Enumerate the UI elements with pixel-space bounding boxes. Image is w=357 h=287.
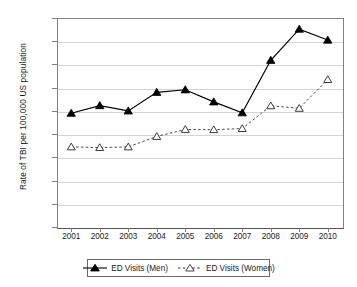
legend-label-women: ED Visits (Women) xyxy=(206,264,275,273)
gridline xyxy=(58,112,343,113)
gridline xyxy=(58,89,343,90)
y-tick-mark xyxy=(52,64,57,65)
gridline xyxy=(58,135,343,136)
y-tick-mark xyxy=(52,181,57,182)
chart-container: Rate of TBI per 100,000 US population 01… xyxy=(0,0,357,287)
filled-triangle-marker-icon xyxy=(82,263,108,273)
gridline xyxy=(58,65,343,66)
legend-entry-women: ED Visits (Women) xyxy=(177,263,275,273)
plot-area xyxy=(57,18,344,229)
y-axis-title: Rate of TBI per 100,000 US population xyxy=(19,22,28,212)
x-tick-label: 2010 xyxy=(308,232,348,241)
legend-label-men: ED Visits (Men) xyxy=(111,264,168,273)
gridline xyxy=(58,205,343,206)
gridline xyxy=(58,42,343,43)
legend-entry-men: ED Visits (Men) xyxy=(82,263,168,273)
gridline xyxy=(58,158,343,159)
y-tick-mark xyxy=(52,111,57,112)
y-tick-mark xyxy=(52,204,57,205)
y-tick-mark xyxy=(52,134,57,135)
y-tick-mark xyxy=(52,88,57,89)
gridline xyxy=(58,182,343,183)
y-tick-mark xyxy=(52,227,57,228)
chart-legend: ED Visits (Men) ED Visits (Women) xyxy=(87,259,270,277)
y-tick-mark xyxy=(52,41,57,42)
y-tick-mark xyxy=(52,157,57,158)
open-triangle-marker-icon xyxy=(177,263,203,273)
y-tick-mark xyxy=(52,18,57,19)
